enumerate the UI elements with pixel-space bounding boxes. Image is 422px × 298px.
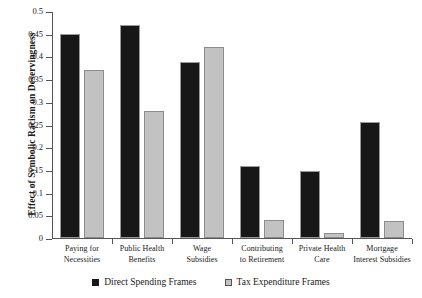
bar-direct-spending — [300, 171, 320, 238]
y-axis-tick: 0.4 — [46, 57, 52, 58]
y-axis-tick: 0.3 — [46, 103, 52, 104]
y-axis-line — [52, 12, 53, 239]
y-axis-tick-label: 0.5 — [32, 5, 43, 18]
y-axis-tick-label: 0.25 — [28, 119, 43, 132]
light-square-icon — [225, 279, 232, 286]
bar-direct-spending — [240, 166, 260, 238]
y-axis-tick-label: 0.3 — [32, 96, 43, 109]
bar-direct-spending — [120, 25, 140, 238]
bar-direct-spending — [180, 62, 200, 238]
bar-tax-expenditure — [324, 233, 344, 238]
category-label-line: Mortgage — [346, 244, 418, 255]
y-axis-tick: 0.1 — [46, 194, 52, 195]
dark-square-icon — [92, 279, 99, 286]
category-label-line: Interest Subsidies — [346, 255, 418, 266]
y-axis-tick: 0.45 — [46, 35, 52, 36]
y-axis-tick-label: 0.2 — [32, 141, 43, 154]
chart-legend: Direct Spending FramesTax Expenditure Fr… — [0, 277, 422, 287]
bar-direct-spending — [60, 34, 80, 238]
bar-tax-expenditure — [264, 220, 284, 238]
bar-chart: Effect of Symbolic Racism on Deservingne… — [0, 0, 422, 298]
y-axis-tick-label: 0 — [39, 232, 43, 245]
legend-item-label: Tax Expenditure Frames — [237, 277, 330, 287]
y-axis-tick: 0.15 — [46, 171, 52, 172]
bar-direct-spending — [360, 122, 380, 238]
bar-tax-expenditure — [204, 47, 224, 238]
y-axis-tick-label: 0.1 — [32, 187, 43, 200]
y-axis-tick: 0.25 — [46, 126, 52, 127]
bar-tax-expenditure — [384, 221, 404, 238]
y-axis-tick-label: 0.15 — [28, 164, 43, 177]
y-axis-tick-label: 0.05 — [28, 209, 43, 222]
y-axis-tick-label: 0.35 — [28, 73, 43, 86]
x-axis-category-label: MortgageInterest Subsidies — [346, 244, 418, 265]
y-axis-tick: 0.5 — [46, 12, 52, 13]
y-axis-tick: 0.35 — [46, 80, 52, 81]
y-axis-tick: 0 — [46, 239, 52, 240]
legend-item: Direct Spending Frames — [92, 277, 196, 287]
legend-item-label: Direct Spending Frames — [104, 277, 196, 287]
bar-tax-expenditure — [144, 111, 164, 238]
y-axis-tick-label: 0.4 — [32, 50, 43, 63]
plot-area: 00.050.10.150.20.250.30.350.40.450.5 — [52, 12, 412, 239]
bar-tax-expenditure — [84, 70, 104, 238]
y-axis-tick-label: 0.45 — [28, 28, 43, 41]
y-axis-tick: 0.2 — [46, 148, 52, 149]
legend-item: Tax Expenditure Frames — [225, 277, 330, 287]
y-axis-tick: 0.05 — [46, 216, 52, 217]
